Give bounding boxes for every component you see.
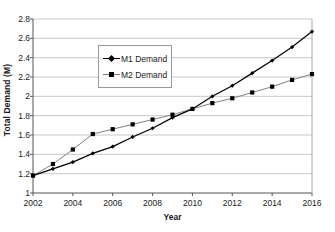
chart-legend: M1 Demand M2 Demand — [98, 45, 172, 88]
legend-item-label: M1 Demand — [121, 54, 167, 64]
line-chart: Total Demand (M) 11.21.41.61.822.22.42.6… — [0, 0, 335, 232]
x-axis-tick-label: 2012 — [223, 198, 242, 208]
x-axis-tick-label: 2016 — [303, 198, 322, 208]
x-axis-tick-label: 2014 — [263, 198, 282, 208]
legend-marker-square-icon — [103, 70, 120, 80]
legend-item-m2[interactable]: M2 Demand — [103, 67, 171, 83]
x-axis-tick-label: 2002 — [24, 198, 43, 208]
x-axis-tick-label: 2010 — [183, 198, 202, 208]
x-axis-tick-labels: 20022004200620082010201220142016 — [0, 0, 335, 232]
x-axis-tick-label: 2004 — [63, 198, 82, 208]
legend-diamond-glyph — [108, 54, 115, 61]
legend-item-label: M2 Demand — [121, 70, 167, 80]
x-axis-tick-label: 2008 — [143, 198, 162, 208]
legend-marker-diamond-icon — [103, 54, 120, 64]
x-axis-title: Year — [33, 212, 312, 222]
legend-item-m1[interactable]: M1 Demand — [103, 51, 171, 67]
x-axis-tick-label: 2006 — [103, 198, 122, 208]
legend-square-glyph — [109, 72, 114, 77]
